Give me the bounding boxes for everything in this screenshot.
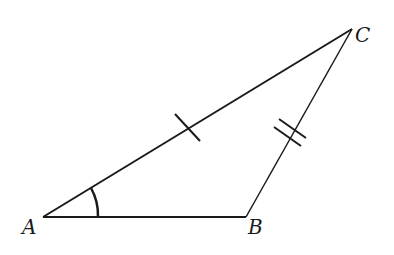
side-ac [43, 29, 352, 217]
angle-arc-a [91, 188, 98, 217]
vertex-label-c: C [355, 23, 370, 47]
vertex-label-a: A [20, 215, 36, 239]
tick-mark-ac [175, 114, 200, 141]
vertex-label-b: B [247, 215, 263, 239]
side-bc [246, 29, 352, 217]
double-tick-mark-bc [274, 119, 306, 146]
triangle-diagram: A B C [0, 0, 394, 255]
